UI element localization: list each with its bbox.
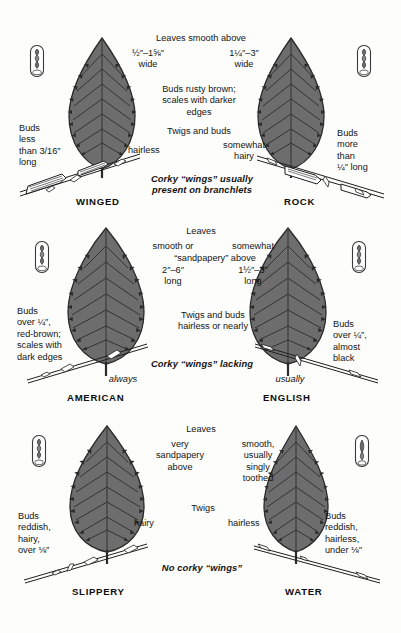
row1-buds-note: Buds rusty brown; scales with darker edg… (141, 84, 257, 118)
species-label-english: ENGLISH (263, 392, 311, 403)
row3-left-col: very sandpapery above (143, 439, 217, 473)
row2-left-size: 2″–6″ long (136, 265, 210, 288)
bud-scales-icon (33, 240, 51, 274)
row2-right-col: somewhat (213, 241, 293, 252)
elm-identification-figure: Leaves smooth above ½″–1⅝″ wide 1¼″–3″ w… (0, 0, 401, 633)
bud-scales-icon (30, 434, 48, 468)
row1-twigs-note: Twigs and buds (145, 126, 253, 137)
bud-scales-icon (355, 44, 373, 78)
row3-corky-note: No corky “wings” (132, 562, 272, 573)
species-label-winged: WINGED (76, 196, 120, 207)
species-label-rock: ROCK (284, 196, 315, 207)
row2-left-col: smooth or (136, 241, 210, 252)
species-label-slippery: SLIPPERY (72, 586, 125, 597)
row2-right-size: 1½″–3″ long (215, 265, 291, 288)
row2-right-qualifier: usually (262, 374, 318, 385)
row1-corky-note: Corky “wings” usually present on branchl… (136, 173, 268, 196)
row1-left-width: ½″–1⅝″ wide (113, 48, 183, 71)
row2-heading: Leaves (161, 226, 241, 237)
species-label-american: AMERICAN (67, 392, 124, 403)
twig-slippery (22, 540, 150, 584)
row3-right-hair: hairless (228, 518, 288, 529)
row2-twigs-note: Twigs and buds hairless or nearly (141, 310, 285, 333)
row2-left-qualifier: always (95, 374, 151, 385)
bud-scales-icon (350, 240, 368, 274)
bud-scales-icon (353, 434, 371, 468)
row3-twigs-note: Twigs (172, 503, 234, 514)
species-label-water: WATER (285, 586, 322, 597)
row3-heading: Leaves (166, 424, 236, 435)
row2-corky-note: Corky “wings” lacking (132, 358, 272, 369)
twig-winged (18, 150, 143, 198)
row2-span-line: “sandpapery” above (140, 253, 290, 264)
row3-right-col: smooth, usually singly toothed (224, 439, 292, 485)
bud-scales-icon (28, 44, 46, 78)
row1-heading: Leaves smooth above (121, 33, 281, 44)
row1-right-width: 1¼″–3″ wide (209, 48, 279, 71)
twig-rock (255, 150, 387, 198)
row3-left-hair: hairy (134, 518, 184, 529)
